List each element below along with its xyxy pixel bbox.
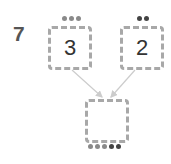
dot bbox=[95, 144, 100, 149]
result-answer-box[interactable] bbox=[85, 99, 129, 143]
dot bbox=[109, 144, 114, 149]
arrow-left bbox=[72, 70, 102, 97]
dot bbox=[116, 144, 121, 149]
result-dots bbox=[88, 144, 121, 149]
dot bbox=[88, 144, 93, 149]
dot bbox=[102, 144, 107, 149]
arrow-right bbox=[111, 70, 135, 97]
